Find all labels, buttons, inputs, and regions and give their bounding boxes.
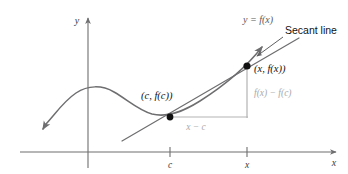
point-x-f-x	[243, 62, 250, 69]
run-label: x − c	[185, 122, 206, 132]
diagram-canvas: c x x y (c, f(c)) (x, f(x)) y =	[0, 0, 348, 174]
x-axis-label: x	[331, 157, 337, 168]
rise-label: f(x) − f(c)	[254, 88, 292, 99]
point-c-f-c	[167, 114, 174, 121]
x-axis-tick-label-x: x	[244, 160, 250, 170]
secant-line-label: Secant line	[285, 24, 337, 36]
y-axis-label: y	[74, 15, 80, 26]
secant-line-figure: c x x y (c, f(c)) (x, f(x)) y =	[0, 0, 348, 174]
curve-left-arrow	[43, 124, 46, 129]
secant-label-leader-line	[257, 37, 283, 56]
curve-label-y-equals-f-of-x: y = f(x)	[242, 14, 274, 26]
x-axis-tick-label-c: c	[168, 160, 173, 170]
point-label-c-f-c: (c, f(c))	[141, 90, 173, 102]
point-label-x-f-x: (x, f(x))	[254, 63, 286, 75]
curve-f-of-x	[46, 47, 262, 124]
